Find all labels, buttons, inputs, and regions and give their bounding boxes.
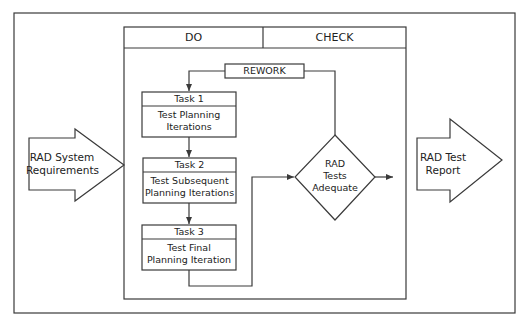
decision-line1: RAD [300,158,370,170]
task1-line2: Iterations [142,121,236,133]
decision-line3: Adequate [300,182,370,194]
input-label-line2: Requirements [26,164,98,177]
input-label: RAD System Requirements [26,151,98,177]
column-label-do: DO [124,31,263,44]
task3-description: Test Final Planning Iteration [142,242,236,266]
task2-title: Task 2 [143,159,236,171]
task3-line2: Planning Iteration [142,254,236,266]
task1-title: Task 1 [142,93,236,105]
output-label-line1: RAD Test [413,151,473,164]
task1-line1: Test Planning [142,109,236,121]
output-label: RAD Test Report [413,151,473,177]
rework-to-decision-line [304,71,335,135]
column-label-check: CHECK [263,31,406,44]
rework-to-task1-arrow [189,71,225,91]
task1-description: Test Planning Iterations [142,109,236,133]
decision-label: RAD Tests Adequate [300,158,370,194]
output-label-line2: Report [413,164,473,177]
input-label-line1: RAD System [26,151,98,164]
task2-line2: Planning Iterations [143,187,236,199]
task2-description: Test Subsequent Planning Iterations [143,175,236,199]
rework-label: REWORK [225,65,304,77]
task3-title: Task 3 [142,226,236,238]
task3-line1: Test Final [142,242,236,254]
decision-line2: Tests [300,170,370,182]
task2-line1: Test Subsequent [143,175,236,187]
